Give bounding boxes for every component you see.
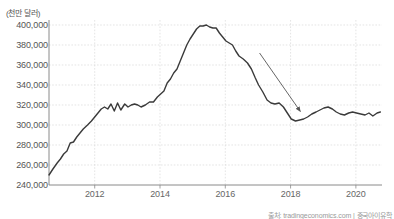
chart-plot-area: [0, 0, 394, 219]
x-tick-label: 2016: [215, 189, 235, 199]
x-tick-label: 2014: [150, 189, 170, 199]
y-tick-label: 400,000: [0, 20, 48, 30]
y-tick-label: 240,000: [0, 180, 48, 190]
y-tick-label: 280,000: [0, 140, 48, 150]
x-axis-ticks: [95, 185, 356, 189]
horizontal-gridlines: [49, 25, 382, 165]
x-tick-label: 2018: [281, 189, 301, 199]
y-tick-label: 360,000: [0, 60, 48, 70]
annotation-arrow: [260, 53, 301, 112]
data-line-series: [49, 25, 380, 175]
y-tick-label: 380,000: [0, 40, 48, 50]
source-caption: 출처: tradingeconomics.com | 중국아이유학: [268, 210, 392, 219]
y-tick-label: 300,000: [0, 120, 48, 130]
trend-arrow-line: [260, 53, 301, 112]
y-tick-label: 320,000: [0, 100, 48, 110]
y-tick-label: 340,000: [0, 80, 48, 90]
x-tick-label: 2020: [346, 189, 366, 199]
y-axis-tick-labels: 240,000260,000280,000300,000320,000340,0…: [0, 0, 48, 219]
y-tick-label: 260,000: [0, 160, 48, 170]
x-tick-label: 2012: [85, 189, 105, 199]
chart-container: (천만 달러) 240,000260,000280,000300,000320,…: [0, 0, 394, 219]
